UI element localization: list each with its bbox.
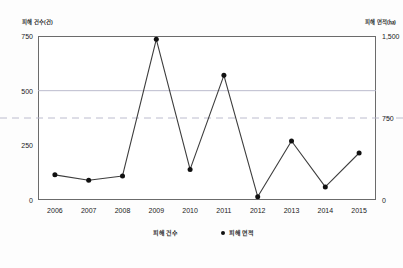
y-axis-left-tick: 750 (21, 36, 33, 43)
x-axis-tick-2012: 2012 (250, 207, 266, 214)
chart-figure: 피해 건수(건) 피해 면적(㏊) 025050075007501,500200… (0, 0, 403, 268)
right-axis-title: 피해 면적(㏊) (365, 18, 396, 26)
legend-label: 피해 면적 (229, 228, 255, 237)
left-axis-title: 피해 건수(건) (22, 18, 53, 26)
y-axis-right-tick: 0 (382, 200, 386, 207)
x-axis-tick-2006: 2006 (47, 207, 63, 214)
y-axis-right-tick: 750 (382, 118, 394, 125)
x-axis-tick-2013: 2013 (284, 207, 300, 214)
x-axis-tick-2008: 2008 (115, 207, 131, 214)
legend-dot-icon (221, 231, 225, 235)
x-axis-tick-2007: 2007 (81, 207, 97, 214)
x-axis-tick-2015: 2015 (351, 207, 367, 214)
y-axis-left-tick: 500 (21, 91, 33, 98)
y-axis-left-tick: 250 (21, 145, 33, 152)
x-axis-tick-2014: 2014 (318, 207, 334, 214)
legend-item: 피해 건수 (149, 228, 179, 237)
y-axis-right-tick: 1,500 (382, 36, 400, 43)
plot-wrapper: 025050075007501,500200620072008200920102… (38, 36, 376, 200)
legend-item: 피해 면적 (221, 228, 255, 237)
x-axis-tick-2009: 2009 (149, 207, 165, 214)
y-axis-left-tick: 0 (29, 200, 33, 207)
chart-legend: 피해 건수피해 면적 (0, 228, 403, 237)
x-axis-tick-2011: 2011 (216, 207, 231, 214)
x-axis-tick-2010: 2010 (182, 207, 198, 214)
chart-plot-svg (38, 36, 376, 200)
legend-label: 피해 건수 (153, 228, 179, 237)
